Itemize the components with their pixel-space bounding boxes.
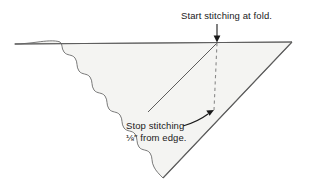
start-stitching-label: Start stitching at fold. xyxy=(181,10,272,22)
stop-stitching-label: Stop stitching ⅛″ from edge. xyxy=(126,120,187,143)
start-stitching-text: Start stitching at fold. xyxy=(181,10,272,21)
fraction-one-eighth: ⅛ xyxy=(126,132,134,143)
from-edge-text: from edge. xyxy=(138,132,187,143)
stop-stitching-text-line1: Stop stitching xyxy=(126,120,184,131)
sewing-diagram xyxy=(0,0,309,188)
stop-stitching-text-line2: ⅛″ from edge. xyxy=(126,132,187,144)
figure-canvas: Start stitching at fold. Stop stitching … xyxy=(0,0,309,188)
down-arrow-icon xyxy=(214,24,221,43)
fabric-shape xyxy=(15,41,292,178)
